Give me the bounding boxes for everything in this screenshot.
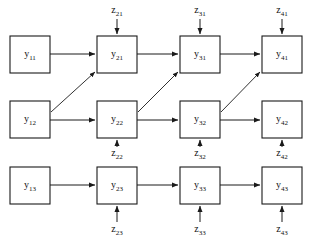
source-label-z22: z22 bbox=[111, 147, 123, 160]
source-label-z43: z43 bbox=[276, 223, 288, 236]
diagonal-edge-layer bbox=[51, 72, 260, 112]
source-label-z32: z32 bbox=[194, 147, 206, 160]
diagonal-edge-y12-to-y21 bbox=[51, 72, 95, 112]
diagonal-edge-y22-to-y31 bbox=[138, 72, 178, 112]
source-label-z23: z23 bbox=[111, 223, 123, 236]
diagram-canvas: z21z31z41z22z32z42z23z33z43 y11y21y31y41… bbox=[0, 0, 312, 242]
source-label-z31: z31 bbox=[194, 4, 206, 17]
source-label-z21: z21 bbox=[111, 4, 123, 17]
horizontal-edge-layer bbox=[50, 54, 260, 185]
diagonal-edge-y32-to-y41 bbox=[221, 72, 260, 112]
source-label-z41: z41 bbox=[276, 4, 288, 17]
lattice-diagram: z21z31z41z22z32z42z23z33z43 y11y21y31y41… bbox=[0, 0, 312, 242]
source-label-z33: z33 bbox=[194, 223, 206, 236]
source-label-z42: z42 bbox=[276, 147, 288, 160]
